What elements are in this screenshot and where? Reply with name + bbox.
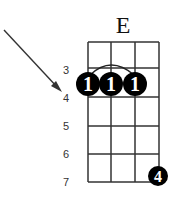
- chord-name: E: [116, 12, 131, 38]
- ukulele-chord-diagram: E 3 4 5 6 7 1 1 1 4: [0, 0, 178, 197]
- fret-label-5: 5: [63, 120, 69, 132]
- svg-text:1: 1: [83, 73, 93, 95]
- finger-dot: 1: [76, 72, 100, 96]
- fret-label-7: 7: [63, 176, 69, 188]
- finger-dot: 1: [123, 72, 147, 96]
- fret-label-4: 4: [63, 92, 69, 104]
- fret-label-3: 3: [63, 64, 69, 76]
- fret-label-6: 6: [63, 148, 69, 160]
- arrow-icon: [4, 30, 62, 92]
- svg-text:1: 1: [130, 73, 140, 95]
- svg-text:4: 4: [154, 168, 162, 185]
- svg-text:1: 1: [106, 73, 116, 95]
- finger-dot: 4: [148, 166, 168, 186]
- finger-dot: 1: [99, 72, 123, 96]
- fretboard-grid: [88, 42, 159, 182]
